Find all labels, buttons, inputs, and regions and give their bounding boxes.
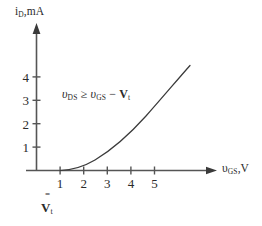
x-tick-label-5: 5 [151,176,158,191]
threshold-equals-sign: = [45,190,50,199]
x-tick-label-4: 4 [128,176,135,191]
x-tick-label-2: 2 [80,176,87,191]
x-tick-label-3: 3 [104,176,111,191]
y-axis-title-subscript: D [18,10,24,19]
y-tick-label-4: 4 [23,70,30,85]
condition-minus-sign: − [109,87,116,101]
condition-rhs-subscript: GS [96,93,106,102]
x-axis-title: υGS,V [222,163,249,175]
condition-threshold-subscript: t [128,93,130,102]
condition-lhs-subscript: DS [68,93,78,102]
threshold-voltage-subscript: t [50,207,52,216]
x-axis-title-subscript: GS [228,167,238,176]
condition-lhs-symbol: υ [62,87,68,101]
threshold-voltage-symbol: V [41,200,50,215]
x-axis-title-symbol: υ [222,162,228,174]
condition-operator: ≥ [81,87,88,101]
y-tick-label-3: 3 [23,93,30,108]
threshold-voltage-label: Vt [41,201,53,214]
mosfet-transfer-characteristic-chart: 1 2 3 4 5 1 2 3 4 [0,0,262,226]
y-tick-label-1: 1 [23,140,30,155]
x-tick-label-1: 1 [57,176,64,191]
y-axis-title: iD,mA [15,6,44,18]
y-axis-title-unit: ,mA [24,5,44,17]
y-tick-label-2: 2 [23,117,30,132]
x-axis-title-unit: ,V [238,162,249,174]
condition-threshold-symbol: V [119,87,128,101]
saturation-condition-annotation: υDS ≥ υGS − Vt [62,88,130,100]
